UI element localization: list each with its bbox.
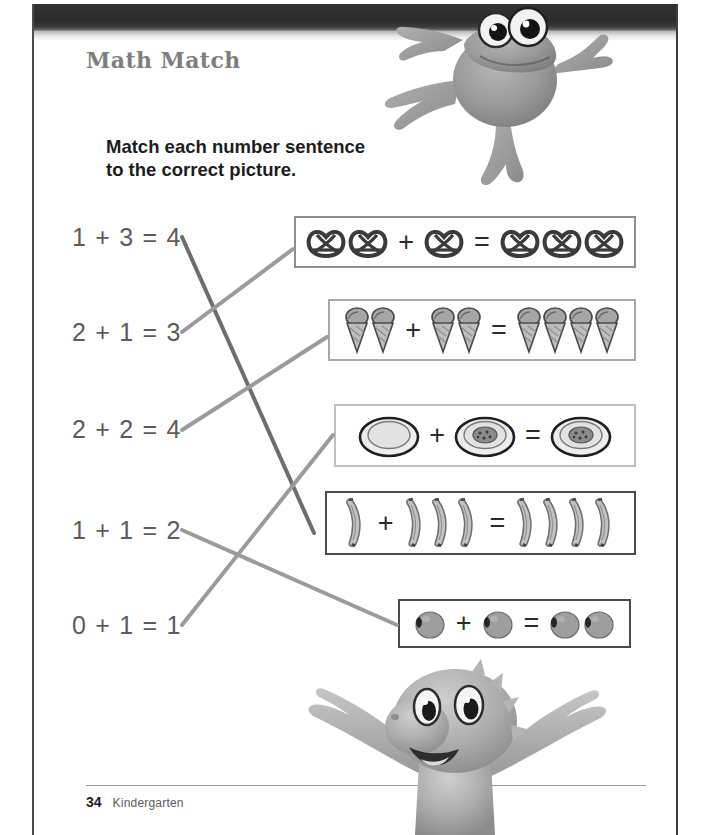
box-pretzels-addend-1-group (305, 226, 389, 258)
box-bananas-addend-2-group (403, 497, 481, 549)
banana-icon (566, 497, 592, 549)
box-plums-addend-1-group (413, 608, 447, 640)
banana-icon (343, 497, 369, 549)
box-bananas-row: += (327, 493, 634, 553)
box-pretzels-sum-group (499, 226, 625, 258)
ice-cream-cone-icon (456, 306, 482, 354)
box-bananas-equals-sign: = (481, 510, 515, 537)
box-pretzels-plus-sign: + (389, 229, 423, 256)
equation-2[interactable]: 2 + 1 = 3 (72, 318, 182, 347)
banana-icon (403, 497, 429, 549)
box-plates-sum-group (550, 414, 612, 458)
equation-5[interactable]: 0 + 1 = 1 (72, 611, 182, 640)
box-plates-row: += (336, 406, 634, 465)
pretzel-icon (583, 226, 625, 258)
box-ice-cream-cones-addend-2-group (430, 306, 482, 354)
box-plates-equals-sign: = (516, 422, 550, 449)
box-plates-plus-sign: + (420, 422, 454, 449)
plum-icon (413, 608, 447, 640)
banana-icon (514, 497, 540, 549)
box-plates-addend-2-group (454, 414, 516, 458)
worksheet-page: Math Match Match each number sentence to… (0, 0, 715, 835)
box-plums-sum-group (548, 608, 616, 640)
box-bananas[interactable]: += (325, 491, 636, 555)
box-bananas-addend-1-group (343, 497, 369, 549)
box-pretzels-row: += (296, 218, 634, 266)
banana-icon (540, 497, 566, 549)
box-plums-addend-2-group (481, 608, 515, 640)
plum-icon (582, 608, 616, 640)
plum-icon (548, 608, 582, 640)
box-plums-row: += (400, 601, 629, 646)
banana-icon (429, 497, 455, 549)
box-ice-cream-cones-plus-sign: + (396, 317, 430, 344)
pretzel-icon (305, 226, 347, 258)
box-bananas-plus-sign: + (369, 510, 403, 537)
box-plates-addend-1-group (358, 414, 420, 458)
box-pretzels-equals-sign: = (465, 229, 499, 256)
pretzel-icon (499, 226, 541, 258)
plate-icon (358, 414, 420, 458)
box-plates[interactable]: += (334, 404, 636, 467)
box-plums-plus-sign: + (447, 610, 481, 637)
ice-cream-cone-icon (430, 306, 456, 354)
box-pretzels[interactable]: += (294, 216, 636, 268)
plate-icon (550, 414, 612, 458)
box-bananas-sum-group (514, 497, 618, 549)
ice-cream-cone-icon (344, 306, 370, 354)
equation-4[interactable]: 1 + 1 = 2 (72, 516, 182, 545)
equation-3[interactable]: 2 + 2 = 4 (72, 415, 182, 444)
ice-cream-cone-icon (568, 306, 594, 354)
ice-cream-cone-icon (370, 306, 396, 354)
box-ice-cream-cones[interactable]: += (328, 299, 636, 361)
box-pretzels-addend-2-group (423, 226, 465, 258)
pretzel-icon (347, 226, 389, 258)
banana-icon (592, 497, 618, 549)
box-ice-cream-cones-row: += (330, 301, 634, 359)
plum-icon (481, 608, 515, 640)
pretzel-icon (541, 226, 583, 258)
banana-icon (455, 497, 481, 549)
box-ice-cream-cones-sum-group (516, 306, 620, 354)
ice-cream-cone-icon (542, 306, 568, 354)
ice-cream-cone-icon (594, 306, 620, 354)
box-ice-cream-cones-equals-sign: = (482, 317, 516, 344)
equation-1[interactable]: 1 + 3 = 4 (72, 223, 182, 252)
plate-icon (454, 414, 516, 458)
pretzel-icon (423, 226, 465, 258)
box-plums[interactable]: += (398, 599, 631, 648)
box-plums-equals-sign: = (515, 610, 549, 637)
ice-cream-cone-icon (516, 306, 542, 354)
box-ice-cream-cones-addend-1-group (344, 306, 396, 354)
